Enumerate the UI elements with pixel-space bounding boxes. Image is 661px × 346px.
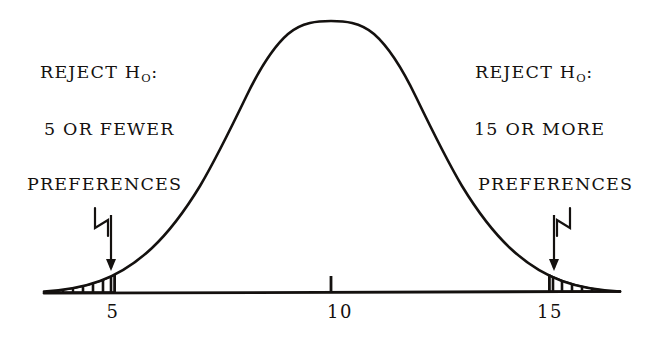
x-axis-tick-label-10: 10: [327, 303, 353, 321]
left-annotation-colon: :: [151, 62, 158, 82]
right-annotation-colon: :: [586, 62, 593, 82]
left-annotation-null-subscript: O: [141, 71, 151, 85]
left-zigzag-arrow: [95, 208, 116, 271]
left-annotation-reject-text: REJECT H: [40, 62, 141, 82]
x-axis-tick-label-15: 15: [537, 303, 563, 321]
right-annotation-null-subscript: O: [576, 71, 586, 85]
lower-rejection-region: [44, 240, 115, 300]
right-annotation-line-1: REJECT HO:: [475, 64, 593, 84]
left-annotation-line-1: REJECT HO:: [40, 64, 158, 84]
right-annotation-line-2: 15 OR MORE: [474, 121, 605, 139]
upper-region-hatching: [553, 240, 612, 300]
distribution-plot: [0, 0, 661, 346]
right-zigzag-arrow: [549, 208, 570, 271]
left-annotation-line-2: 5 OR FEWER: [44, 121, 175, 139]
right-annotation-line-3: PREFERENCES: [478, 176, 633, 194]
statistics-figure: REJECT HO: 5 OR FEWER PREFERENCES REJECT…: [0, 0, 661, 346]
left-annotation-line-3: PREFERENCES: [27, 176, 182, 194]
x-axis-tick-label-5: 5: [107, 303, 120, 321]
right-annotation-reject-text: REJECT H: [475, 62, 576, 82]
